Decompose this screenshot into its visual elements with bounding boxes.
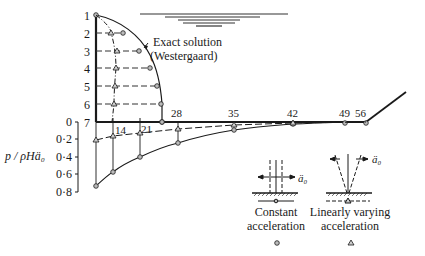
pressure-tick: 0·4 bbox=[56, 150, 72, 164]
pressure-tick-labels: 0 0·2 0·4 0·6 0·8 bbox=[56, 115, 72, 199]
wall-node-label: 1 bbox=[84, 9, 90, 23]
circle-marker-icon bbox=[275, 241, 280, 246]
pressure-tick: 0·8 bbox=[56, 185, 72, 199]
pressure-tick: 0·6 bbox=[56, 167, 72, 181]
accel-label: ä₀ bbox=[298, 172, 308, 184]
triangle-marker-icon bbox=[348, 240, 354, 245]
pressure-axis-label: p / ρHä₀ bbox=[4, 149, 45, 163]
wall-node-label: 7 bbox=[84, 116, 90, 130]
base-drop-lines bbox=[96, 122, 178, 186]
base-node-label: 21 bbox=[141, 123, 152, 135]
wall-node-label: 6 bbox=[84, 98, 90, 112]
water-surface-icon bbox=[140, 14, 288, 26]
pressure-tick: 0·2 bbox=[56, 132, 72, 146]
legend-linear-line1: Linearly varying bbox=[310, 205, 390, 219]
base-node-label: 14 bbox=[115, 124, 127, 136]
exact-solution-label: Exact solution bbox=[153, 35, 222, 49]
wall-node-label: 2 bbox=[84, 27, 90, 41]
base-node-label: 42 bbox=[287, 107, 298, 119]
wall-node-label: 5 bbox=[84, 80, 90, 94]
constant-accel-icon bbox=[252, 160, 298, 203]
legend-constant-accel: ä₀ Constant acceleration bbox=[247, 160, 307, 245]
legend-constant-line1: Constant bbox=[255, 205, 298, 219]
base-node-label: 56 bbox=[355, 107, 367, 119]
pressure-tick: 0 bbox=[66, 115, 72, 129]
legend-constant-line2: acceleration bbox=[247, 219, 305, 233]
accel-label: ä₀ bbox=[372, 153, 382, 165]
legend-linear-line2: acceleration bbox=[321, 219, 379, 233]
linear-accel-icon bbox=[326, 154, 372, 203]
westergaard-label: (Westergaard) bbox=[150, 49, 217, 63]
constant-accel-base-curve bbox=[96, 122, 366, 186]
legend-linear-accel: ä₀ Linearly varying acceleration bbox=[310, 153, 390, 245]
westergaard-pressure-diagram: 1 2 3 4 5 6 7 Exact solution (Westergaar… bbox=[0, 0, 425, 256]
wall-node-label: 4 bbox=[84, 62, 90, 76]
wall-node-label: 3 bbox=[84, 45, 90, 59]
base-node-label: 49 bbox=[339, 107, 351, 119]
base-node-label: 35 bbox=[228, 107, 240, 119]
wall-node-labels: 1 2 3 4 5 6 7 bbox=[84, 9, 90, 130]
reservoir-far-slope bbox=[366, 92, 406, 122]
base-node-label: 28 bbox=[171, 107, 183, 119]
